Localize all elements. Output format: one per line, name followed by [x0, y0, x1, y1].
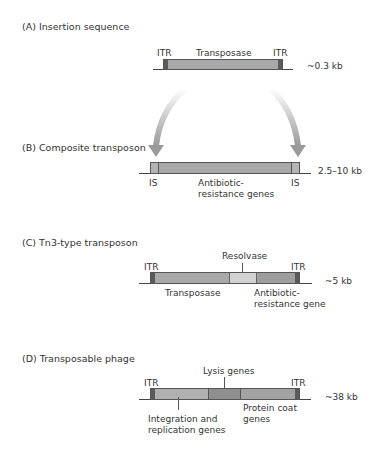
panel-c-size: ~5 kb [325, 276, 352, 287]
panel-c-antibiotic-label-1: Antibiotic- [254, 288, 300, 299]
panel-b-is-left [151, 163, 159, 173]
panel-d-element [150, 388, 300, 400]
panel-b-is-right-label: IS [291, 178, 299, 189]
panel-d-integration-segment [155, 389, 209, 399]
panel-d-lysis-segment [209, 389, 241, 399]
panel-c-heading: (C) Tn3-type transposon [22, 237, 138, 248]
panel-d-heading: (D) Transposable phage [22, 353, 135, 364]
panel-b-antibiotic-label-2: resistance genes [198, 189, 274, 200]
panel-c-transposase-segment [155, 273, 230, 283]
panel-d-integration-label-2: replication genes [148, 425, 226, 436]
panel-b-element [150, 162, 300, 174]
panel-b-is-right [291, 163, 299, 173]
panel-d-integration-pointer [178, 397, 179, 410]
arrow-left-icon [148, 88, 186, 157]
panel-c-resolvase-segment [230, 273, 257, 283]
panel-c-antibiotic-segment [257, 273, 295, 283]
panel-d-size: ~38 kb [325, 392, 358, 403]
arrow-right-icon [270, 88, 306, 157]
panel-b-is-left-label: IS [149, 178, 157, 189]
arrows-layer [0, 0, 379, 453]
panel-c-transposase-label: Transposase [165, 288, 220, 299]
panel-b-antibiotic-label-1: Antibiotic- [198, 178, 244, 189]
panel-d-protein-label-1: Protein coat [243, 403, 297, 414]
panel-c-itr-right [295, 273, 299, 283]
panel-b-antibiotic-segment [159, 163, 291, 173]
panel-b-size: 2.5–10 kb [318, 166, 362, 177]
panel-d-lysis-label: Lysis genes [203, 366, 254, 377]
panel-d-integration-label-1: Integration and [148, 414, 217, 425]
panel-d-protein-label-2: genes [243, 414, 270, 425]
panel-d-protein-coat-segment [241, 389, 295, 399]
panel-c-element [150, 272, 300, 284]
panel-d-itr-right [295, 389, 299, 399]
panel-b-heading: (B) Composite transposon [22, 142, 146, 153]
panel-c-antibiotic-label-2: resistance gene [254, 299, 326, 310]
panel-c-resolvase-label: Resolvase [222, 251, 267, 262]
